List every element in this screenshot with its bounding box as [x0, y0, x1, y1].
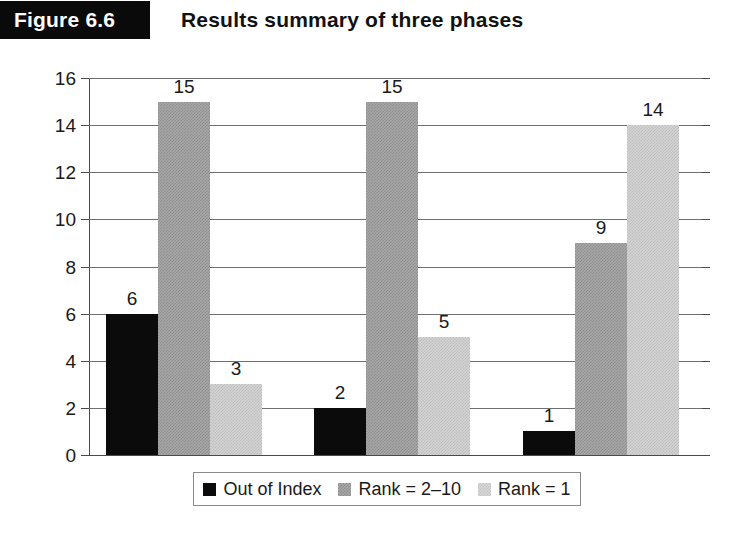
- page-title: Results summary of three phases: [150, 8, 523, 32]
- y-axis-tick: [81, 267, 89, 268]
- y-axis-tick-right: [702, 267, 710, 268]
- y-axis-tick-label: 0: [65, 446, 76, 465]
- y-axis-labels: 0246810121416: [0, 40, 76, 536]
- bar-value-label: 15: [173, 77, 194, 96]
- y-axis-tick-right: [702, 125, 710, 126]
- black-square-icon: [203, 483, 216, 496]
- y-axis-tick-label: 12: [55, 163, 76, 182]
- legend-item-2[interactable]: Rank = 2–10: [338, 479, 461, 500]
- y-axis-tick: [81, 125, 89, 126]
- figure-container: Figure 6.6 Results summary of three phas…: [0, 0, 740, 536]
- y-axis-tick-right: [702, 455, 710, 456]
- y-axis-tick-right: [702, 78, 710, 79]
- y-axis-tick: [81, 408, 89, 409]
- light-gray-square-icon: [478, 483, 491, 496]
- legend-item-3[interactable]: Rank = 1: [478, 479, 571, 500]
- bar-value-label: 5: [439, 312, 450, 331]
- bar-2-2[interactable]: [366, 102, 418, 455]
- y-axis-tick: [81, 455, 89, 456]
- y-axis-tick-label: 8: [65, 257, 76, 276]
- bar-1-2[interactable]: [158, 102, 210, 455]
- y-axis-tick-label: 16: [55, 69, 76, 88]
- legend-item-label: Rank = 1: [498, 479, 571, 500]
- bar-value-label: 1: [544, 406, 555, 425]
- y-axis-tick-right: [702, 314, 710, 315]
- bar-2-1[interactable]: [314, 408, 366, 455]
- bar-value-label: 9: [596, 218, 607, 237]
- bar-value-label: 3: [231, 359, 242, 378]
- y-axis-tick-label: 14: [55, 116, 76, 135]
- y-axis-tick: [81, 314, 89, 315]
- bar-1-1[interactable]: [106, 314, 158, 455]
- y-axis-tick-label: 10: [55, 210, 76, 229]
- y-axis-tick-label: 2: [65, 398, 76, 417]
- bar-1-3[interactable]: [210, 384, 262, 455]
- y-axis-tick-label: 6: [65, 304, 76, 323]
- bar-value-label: 6: [127, 289, 138, 308]
- y-axis-tick: [81, 172, 89, 173]
- chart-canvas: 0246810121416 621151593514 Out of IndexR…: [0, 40, 740, 536]
- y-axis-tick-right: [702, 361, 710, 362]
- y-axis-tick-right: [702, 219, 710, 220]
- y-axis-tick-right: [702, 172, 710, 173]
- y-axis-tick: [81, 219, 89, 220]
- bar-3-2[interactable]: [575, 243, 627, 455]
- figure-header: Figure 6.6 Results summary of three phas…: [0, 0, 740, 40]
- y-axis-tick-label: 4: [65, 351, 76, 370]
- y-axis-tick-right: [702, 408, 710, 409]
- medium-gray-square-icon: [338, 483, 351, 496]
- legend-item-1[interactable]: Out of Index: [203, 479, 321, 500]
- bar-2-3[interactable]: [418, 337, 470, 455]
- gridline: [89, 455, 702, 456]
- y-axis-tick: [81, 78, 89, 79]
- bar-3-3[interactable]: [627, 125, 679, 455]
- bar-3-1[interactable]: [523, 431, 575, 455]
- figure-number-banner: Figure 6.6: [0, 1, 150, 39]
- plot-area: 621151593514: [89, 78, 702, 455]
- chart-legend: Out of IndexRank = 2–10Rank = 1: [193, 472, 581, 506]
- bar-value-label: 15: [381, 77, 402, 96]
- legend-item-label: Out of Index: [223, 479, 321, 500]
- legend-item-label: Rank = 2–10: [358, 479, 461, 500]
- y-axis-tick: [81, 361, 89, 362]
- bar-value-label: 14: [642, 100, 663, 119]
- bar-value-label: 2: [335, 383, 346, 402]
